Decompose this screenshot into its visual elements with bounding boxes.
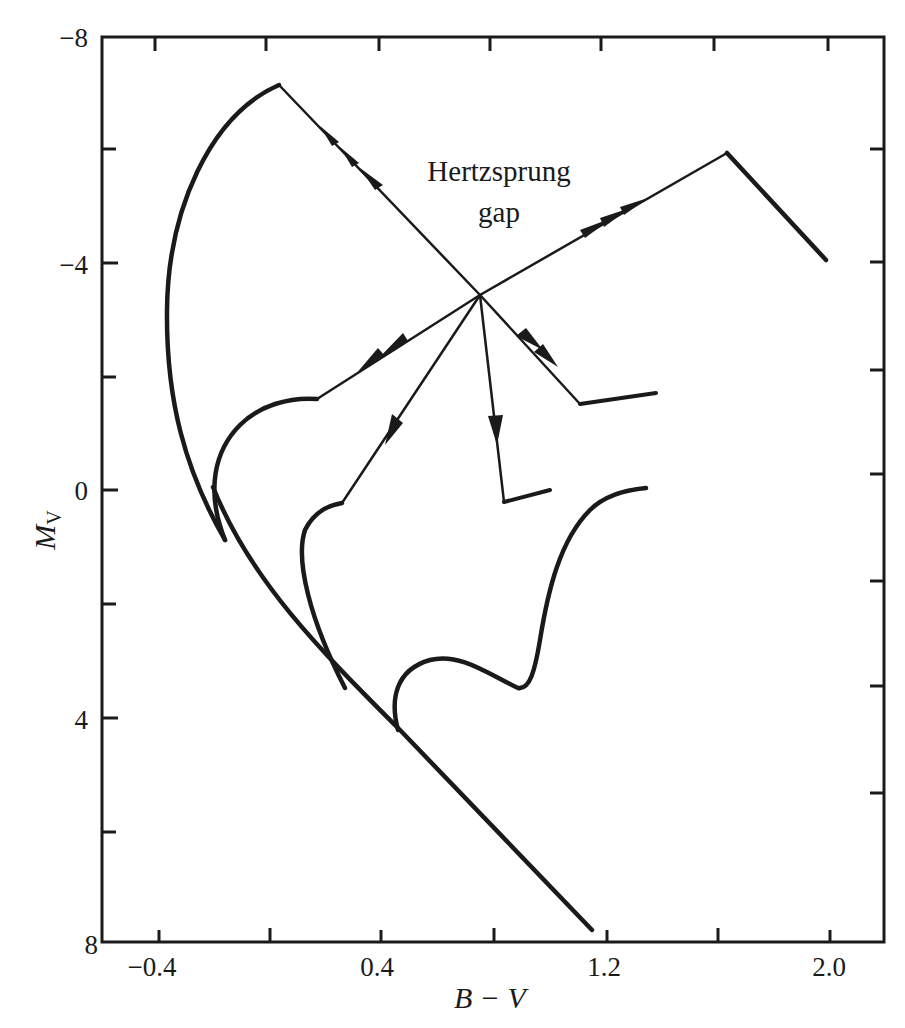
- track-6-curve: [395, 488, 646, 730]
- x-ticks-bottom: [159, 928, 830, 942]
- hr-diagram-chart: −8 −4 0 4 8 −0.4 0.4 1.2 2.0 B − V MV He…: [0, 0, 905, 1028]
- track-3-line: [342, 295, 480, 503]
- track-5-tail: [580, 393, 656, 404]
- track-massive-crossing: [279, 85, 480, 295]
- y-tick-label: −4: [59, 250, 88, 280]
- y-ticks-right: [870, 149, 884, 793]
- y-axis-label: MV: [28, 510, 65, 551]
- y-tick-label: −8: [59, 23, 88, 53]
- track-giant-tail: [727, 153, 826, 260]
- track-3-curve: [302, 503, 345, 688]
- x-tick-label: 2.0: [812, 952, 846, 982]
- arrow-icon-group-upleft: [320, 126, 383, 190]
- track-4-line: [480, 295, 504, 502]
- y-axis-label-main: M: [28, 523, 61, 551]
- x-axis-label: B − V: [454, 981, 530, 1014]
- x-tick-label: −0.4: [128, 952, 177, 982]
- hertzsprung-gap-label-line1: Hertzsprung: [427, 155, 570, 187]
- y-axis-label-sub: V: [43, 510, 65, 525]
- y-tick-label: 0: [75, 476, 89, 506]
- y-ticks-left: [102, 149, 118, 832]
- hertzsprung-gap-label-line2: gap: [478, 196, 520, 228]
- y-tick-label: 4: [75, 705, 89, 735]
- track-massive-curve: [167, 85, 279, 540]
- y-tick-label: 8: [85, 930, 99, 960]
- main-sequence-line: [213, 487, 592, 930]
- x-tick-label: 0.4: [360, 952, 394, 982]
- x-tick-label: 1.2: [587, 952, 621, 982]
- arrow-icon-group-track4: [488, 415, 503, 445]
- arrow-icon-group-track2: [355, 333, 408, 375]
- x-ticks-top: [155, 37, 828, 51]
- track-5-line: [480, 295, 580, 404]
- arrow-icon-group-upright: [580, 198, 648, 238]
- arrow-icon-group-track3: [385, 414, 403, 445]
- track-4-tail: [504, 490, 550, 502]
- arrow-icon-group-track5: [516, 328, 558, 367]
- svg-text:MV: MV: [28, 510, 65, 551]
